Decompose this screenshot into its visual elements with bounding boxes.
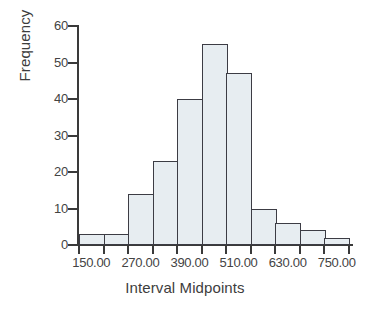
histogram-bar <box>153 161 179 245</box>
y-axis-tick-label: 60 <box>28 19 68 32</box>
y-axis-tick-mark <box>68 244 77 246</box>
y-axis-tick-label: 30 <box>28 129 68 142</box>
y-axis-tick-label: 40 <box>28 92 68 105</box>
histogram-bar <box>324 238 350 245</box>
histogram-bar <box>251 209 277 246</box>
y-axis-tick-label: 0 <box>28 238 68 251</box>
x-axis-tick-mark <box>274 246 276 254</box>
x-axis-tick-mark <box>348 246 350 254</box>
y-axis-tick-mark <box>68 25 77 27</box>
histogram-bar <box>300 230 326 245</box>
y-axis-tick-mark <box>68 208 77 210</box>
x-axis-tick-mark <box>225 246 227 254</box>
x-axis-tick-mark <box>103 246 105 254</box>
x-axis-tick-mark <box>78 246 80 254</box>
x-axis-tick-mark <box>201 246 203 254</box>
histogram-bar <box>275 223 301 245</box>
histogram-figure: Frequency 0102030405060 150.00270.00390.… <box>0 0 370 313</box>
histogram-bar <box>202 44 228 245</box>
y-axis-tick-mark <box>68 171 77 173</box>
histogram-bar <box>79 234 105 245</box>
x-axis-tick-mark <box>299 246 301 254</box>
x-axis-title: Interval Midpoints <box>0 280 370 295</box>
y-axis-tick-label: 20 <box>28 165 68 178</box>
x-axis-tick-mark <box>152 246 154 254</box>
y-axis-tick-mark <box>68 98 77 100</box>
plot-area <box>79 26 349 245</box>
y-axis-tick-label: 50 <box>28 56 68 69</box>
x-axis-tick-label: 750.00 <box>305 256 369 269</box>
x-axis-tick-mark <box>250 246 252 254</box>
histogram-bar <box>104 234 130 245</box>
x-axis-tick-mark <box>127 246 129 254</box>
y-axis-tick-label: 10 <box>28 202 68 215</box>
x-axis-tick-mark <box>176 246 178 254</box>
x-axis-tick-mark <box>323 246 325 254</box>
y-axis-tick-mark <box>68 135 77 137</box>
y-axis-tick-mark <box>68 62 77 64</box>
histogram-bar <box>177 99 203 245</box>
histogram-bar <box>128 194 154 245</box>
histogram-bar <box>226 73 252 245</box>
